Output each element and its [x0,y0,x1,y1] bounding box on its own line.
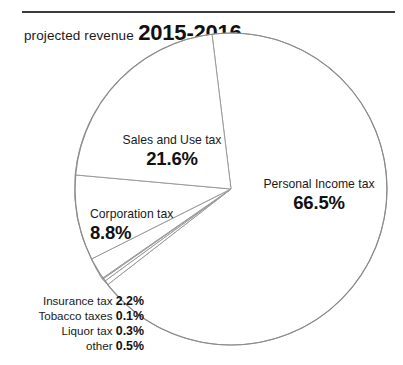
label-personal-income-tax: Personal Income tax 66.5% [249,177,389,213]
label-corporation-tax-name: Corporation tax [90,207,210,222]
label-other-percent: 0.5% [116,339,144,353]
label-insurance-tax-name: Insurance tax [43,294,113,307]
label-tobacco-taxes-percent: 0.1% [116,309,144,323]
label-liquor-tax-percent: 0.3% [116,324,144,338]
label-sales-and-use-tax-name: Sales and Use tax [106,133,238,148]
revenue-pie-chart-figure: projected revenue 2015-2016 Sales and Us… [0,0,403,365]
label-corporation-tax-percent: 8.8% [90,222,210,243]
label-other-name: other [86,339,112,352]
label-insurance-tax-percent: 2.2% [116,294,144,308]
label-other: other 0.5% [0,338,144,355]
label-tobacco-taxes-name: Tobacco taxes [38,309,112,322]
label-corporation-tax: Corporation tax 8.8% [90,207,210,243]
label-sales-and-use-tax: Sales and Use tax 21.6% [106,133,238,169]
label-liquor-tax-name: Liquor tax [62,324,113,337]
label-sales-and-use-tax-percent: 21.6% [106,148,238,169]
label-personal-income-tax-percent: 66.5% [249,192,389,213]
label-personal-income-tax-name: Personal Income tax [249,177,389,192]
